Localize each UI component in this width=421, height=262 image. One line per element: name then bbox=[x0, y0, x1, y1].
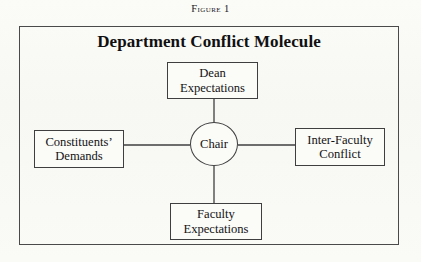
node-constituents-demands[interactable]: Constituents’ Demands bbox=[34, 130, 124, 168]
node-dean-line-2: Expectations bbox=[180, 81, 245, 95]
node-constituents-line-1: Constituents’ bbox=[45, 135, 112, 149]
node-interfaculty-line-1: Inter-Faculty bbox=[307, 133, 373, 147]
node-constituents-line-2: Demands bbox=[55, 149, 103, 163]
node-dean-line-1: Dean bbox=[199, 66, 226, 80]
diagram-title: Department Conflict Molecule bbox=[19, 32, 399, 52]
node-chair-label: Chair bbox=[200, 137, 228, 152]
node-faculty-expectations[interactable]: Faculty Expectations bbox=[170, 203, 262, 240]
node-inter-faculty-conflict[interactable]: Inter-Faculty Conflict bbox=[295, 128, 385, 166]
figure-caption: Figure 1 bbox=[0, 3, 421, 14]
node-faculty-line-1: Faculty bbox=[197, 207, 235, 221]
node-faculty-line-2: Expectations bbox=[183, 222, 248, 236]
node-chair[interactable]: Chair bbox=[190, 122, 238, 166]
node-dean-expectations[interactable]: Dean Expectations bbox=[167, 62, 258, 99]
node-interfaculty-line-2: Conflict bbox=[319, 147, 360, 161]
